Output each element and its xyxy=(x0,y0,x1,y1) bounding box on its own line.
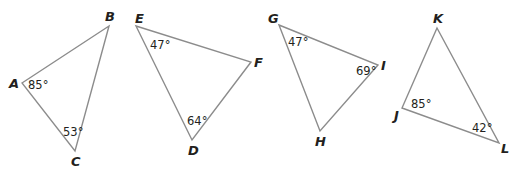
vertex-label-f: F xyxy=(254,55,263,70)
triangles-diagram: B A C 85° 53° E F D 47° 64° G I H 47° 69… xyxy=(0,0,518,173)
triangle-gih: G I H 47° 69° xyxy=(268,11,386,149)
vertex-label-a: A xyxy=(8,76,19,91)
angle-label-g: 47° xyxy=(288,35,308,49)
triangle-efd: E F D 47° 64° xyxy=(135,11,263,158)
angle-label-j: 85° xyxy=(411,97,431,111)
vertex-label-d: D xyxy=(188,143,199,158)
angle-label-c: 53° xyxy=(63,125,83,139)
vertex-label-j: J xyxy=(391,108,399,123)
angle-label-a: 85° xyxy=(28,78,48,92)
vertex-label-i: I xyxy=(381,58,386,73)
triangle-abc: B A C 85° 53° xyxy=(8,9,115,169)
vertex-label-c: C xyxy=(71,154,81,169)
vertex-label-b: B xyxy=(105,9,115,24)
triangle-kjl: K J L 85° 42° xyxy=(391,11,509,156)
vertex-label-e: E xyxy=(135,11,144,26)
vertex-label-g: G xyxy=(268,11,279,26)
angle-label-i: 69° xyxy=(356,64,376,78)
vertex-label-h: H xyxy=(315,134,326,149)
angle-label-d: 64° xyxy=(187,114,207,128)
vertex-label-k: K xyxy=(433,11,444,26)
vertex-label-l: L xyxy=(501,141,509,156)
angle-label-l: 42° xyxy=(472,121,492,135)
angle-label-e: 47° xyxy=(150,38,170,52)
